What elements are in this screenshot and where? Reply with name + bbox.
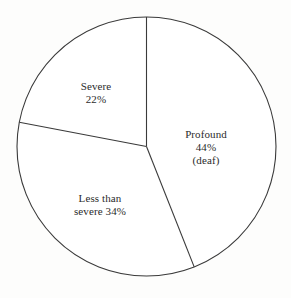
pie-slice-label-severe-name: Severe xyxy=(55,80,137,93)
pie-chart: Profound 44% (deaf) Severe 22% Less than… xyxy=(0,0,291,298)
pie-slice-label-profound-note: (deaf) xyxy=(160,154,252,167)
pie-slice-label-less-than-severe-line1: Less than xyxy=(52,192,148,205)
pie-slice-label-severe: Severe 22% xyxy=(55,80,137,106)
pie-slice-label-profound: Profound 44% (deaf) xyxy=(160,128,252,167)
pie-slice-label-severe-value: 22% xyxy=(55,93,137,106)
pie-slice-label-less-than-severe: Less than severe 34% xyxy=(52,192,148,218)
pie-slice-label-profound-value: 44% xyxy=(160,141,252,154)
pie-slice-label-less-than-severe-line2: severe 34% xyxy=(52,205,148,218)
pie-slice-label-profound-name: Profound xyxy=(160,128,252,141)
